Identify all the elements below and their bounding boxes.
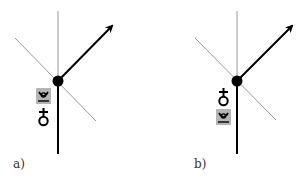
panel-b: [195, 11, 292, 154]
arrow-line: [58, 26, 112, 81]
cross-circle-icon-a: [39, 108, 48, 125]
panel-a: [15, 11, 112, 154]
horn-icon-a: [36, 88, 51, 104]
panel-label-b: b): [194, 157, 206, 171]
horn-icon-b: [216, 109, 231, 125]
cross-circle-icon-b: [219, 88, 228, 105]
vertex-node: [53, 76, 64, 87]
vertex-node: [232, 76, 243, 87]
panel-label-a: a): [13, 157, 25, 171]
arrow-line: [237, 26, 292, 81]
diagram-canvas: [0, 0, 305, 181]
